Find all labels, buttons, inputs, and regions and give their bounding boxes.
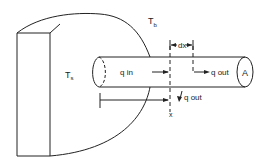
x-dim-arrowhead [163, 98, 169, 102]
area-label: A [242, 68, 248, 78]
dx-arrowhead-right [187, 43, 192, 47]
dx-label: dx [178, 41, 186, 50]
x-label: x [169, 111, 173, 118]
q-out-axial-label: q out [211, 68, 230, 77]
q-in-arrowhead [163, 70, 169, 74]
fin-heat-transfer-diagram: Ts Tb dx q in q out q out A x [0, 0, 267, 162]
fin-base-back-arc [99, 57, 105, 87]
wall-top-curve [17, 13, 150, 57]
surface-temp-label: Ts [65, 70, 74, 81]
q-out-surface-arrowhead [177, 96, 182, 102]
q-in-label: q in [120, 68, 133, 77]
base-temp-label: Tb [148, 16, 158, 28]
wall-front-face [17, 33, 50, 156]
q-out-surface-label: q out [184, 93, 203, 102]
fin-base-front-arc [93, 57, 99, 87]
wall-block [17, 13, 150, 156]
q-out-axial-arrowhead [204, 70, 210, 74]
wall-corner-slant [50, 24, 60, 33]
fin-cylinder [93, 57, 253, 87]
dx-arrowhead-left [171, 43, 176, 47]
